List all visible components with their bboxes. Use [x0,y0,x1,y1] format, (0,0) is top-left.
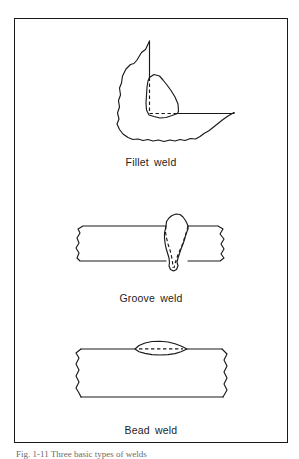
caption-bead-weld: Bead weld [15,425,287,436]
fillet-weld-diagram [64,35,239,153]
groove-weld-diagram [66,209,236,287]
panel-fillet-weld: Fillet weld [15,35,287,185]
figure-bottom-caption: Fig. 1-11 Three basic types of welds [16,449,246,459]
caption-groove-weld: Groove weld [15,293,287,304]
panel-groove-weld: Groove weld [15,209,287,319]
caption-fillet-weld: Fillet weld [15,157,287,168]
bead-weld-diagram [59,337,244,417]
figure-frame-border: Fillet weld Groove weld [14,18,288,443]
panel-bead-weld: Bead weld [15,337,287,447]
figure-page: Fillet weld Groove weld [0,0,299,459]
